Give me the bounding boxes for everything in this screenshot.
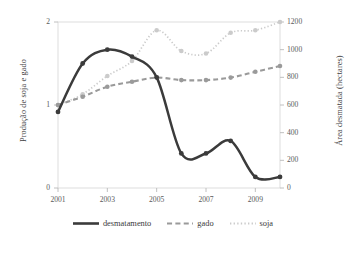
series-marker-soja bbox=[154, 28, 159, 33]
x-axis-tick-label: 2001 bbox=[38, 195, 78, 204]
series-marker-gado bbox=[80, 94, 85, 99]
series-marker-gado bbox=[278, 64, 283, 69]
series-marker-soja bbox=[105, 74, 110, 79]
y-axis-right-tick-label: 800 bbox=[287, 72, 315, 81]
plot-area bbox=[0, 0, 346, 253]
series-marker-desmatamento bbox=[278, 175, 283, 180]
series-marker-soja bbox=[253, 28, 258, 33]
y-axis-right-tick-label: 1000 bbox=[287, 45, 315, 54]
legend-item-desmatamento[interactable]: desmatamento bbox=[73, 219, 151, 228]
y-axis-right-tick-label: 400 bbox=[287, 128, 315, 137]
legend-label: desmatamento bbox=[103, 219, 151, 228]
y-axis-left-tick-label: 0 bbox=[28, 183, 50, 192]
series-marker-soja bbox=[228, 30, 233, 35]
series-marker-soja bbox=[179, 49, 184, 54]
x-axis-tick-label: 2009 bbox=[235, 195, 275, 204]
legend-label: soja bbox=[260, 219, 274, 228]
chart-legend: desmatamentogadosoja bbox=[0, 219, 346, 228]
legend-swatch-desmatamento bbox=[73, 219, 99, 228]
series-marker-desmatamento bbox=[105, 47, 110, 52]
series-marker-desmatamento bbox=[154, 75, 159, 80]
legend-swatch-soja bbox=[230, 219, 256, 228]
series-marker-gado bbox=[179, 78, 184, 83]
series-marker-desmatamento bbox=[179, 151, 184, 156]
legend-item-gado[interactable]: gado bbox=[167, 219, 213, 228]
series-marker-soja bbox=[130, 59, 135, 64]
legend-label: gado bbox=[197, 219, 213, 228]
series-marker-desmatamento bbox=[253, 175, 258, 180]
y-axis-left-tick-label: 2 bbox=[28, 17, 50, 26]
chart-figure: Produção de soja e gado Área desmatada (… bbox=[0, 0, 346, 253]
series-marker-desmatamento bbox=[56, 110, 61, 115]
series-line-desmatamento bbox=[58, 49, 280, 179]
series-marker-gado bbox=[130, 79, 135, 84]
series-marker-desmatamento bbox=[130, 54, 135, 59]
series-marker-gado bbox=[253, 70, 258, 75]
series-marker-gado bbox=[228, 75, 233, 80]
series-marker-desmatamento bbox=[204, 151, 209, 156]
legend-swatch-gado bbox=[167, 219, 193, 228]
y-axis-right-tick-label: 200 bbox=[287, 155, 315, 164]
y-axis-right-tick-label: 600 bbox=[287, 100, 315, 109]
series-marker-desmatamento bbox=[80, 61, 85, 66]
y-axis-right-tick-label: 1200 bbox=[287, 17, 315, 26]
series-line-gado bbox=[58, 66, 280, 105]
x-axis-tick-label: 2003 bbox=[87, 195, 127, 204]
x-axis-tick-label: 2005 bbox=[137, 195, 177, 204]
series-marker-gado bbox=[105, 84, 110, 89]
series-marker-soja bbox=[278, 20, 283, 25]
x-axis-tick-label: 2007 bbox=[186, 195, 226, 204]
legend-item-soja[interactable]: soja bbox=[230, 219, 274, 228]
series-marker-gado bbox=[204, 78, 209, 83]
series-marker-desmatamento bbox=[228, 139, 233, 144]
y-axis-left-tick-label: 1 bbox=[28, 100, 50, 109]
y-axis-right-tick-label: 0 bbox=[287, 183, 315, 192]
series-marker-soja bbox=[204, 51, 209, 56]
